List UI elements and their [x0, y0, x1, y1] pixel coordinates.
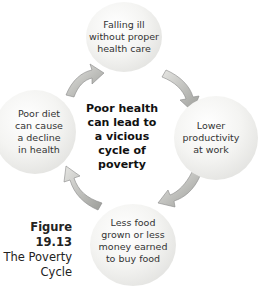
- figure-title: Cycle: [0, 265, 72, 280]
- node-text: in health: [15, 144, 63, 156]
- node-text: Lower: [183, 120, 240, 132]
- figure-number: Figure 19.13: [0, 220, 72, 250]
- arrow-bottom-to-left: [64, 166, 102, 210]
- node-text: Less food: [99, 217, 168, 229]
- arrow-right-to-bottom: [158, 172, 200, 207]
- node-text: a decline: [15, 132, 63, 144]
- arrow-left-to-top: [66, 64, 104, 97]
- node-right: Lower productivity at work: [174, 96, 258, 180]
- node-text: money earned: [99, 241, 168, 253]
- center-line: Poor health: [82, 102, 162, 116]
- node-text: productivity: [183, 132, 240, 144]
- node-text: Falling ill: [89, 19, 159, 31]
- node-text: at work: [183, 144, 240, 156]
- center-line: poverty: [82, 158, 162, 172]
- center-line: can lead to: [82, 116, 162, 130]
- node-text: can cause: [15, 120, 63, 132]
- figure-caption: Figure 19.13 The Poverty Cycle: [0, 220, 72, 280]
- node-text: without proper: [89, 31, 159, 43]
- node-text: grown or less: [99, 229, 168, 241]
- node-text: to buy food: [99, 253, 168, 265]
- node-top: Falling ill without proper health care: [86, 2, 162, 72]
- node-bottom: Less food grown or less money earned to …: [90, 204, 176, 286]
- node-text: Poor diet: [15, 108, 63, 120]
- center-line: cycle of: [82, 144, 162, 158]
- center-line: a vicious: [82, 130, 162, 144]
- center-statement: Poor health can lead to a vicious cycle …: [82, 102, 162, 172]
- node-text: health care: [89, 43, 159, 55]
- figure-title: The Poverty: [0, 250, 72, 265]
